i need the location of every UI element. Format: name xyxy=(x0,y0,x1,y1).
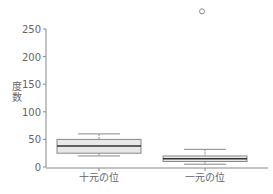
x-tick-label: 一元の位 xyxy=(185,171,225,183)
y-tick-label: 150 xyxy=(22,79,41,90)
y-tick-label: 200 xyxy=(22,52,41,63)
y-tick-label: 0 xyxy=(35,162,41,173)
y-tick-label: 100 xyxy=(22,107,41,118)
y-tick-label: 250 xyxy=(22,24,41,35)
plot-area xyxy=(57,9,247,164)
x-tick-label: 十元の位 xyxy=(79,171,119,183)
box-plot-chart: 050100150200250 十元の位一元の位 度数 xyxy=(0,0,273,194)
y-axis: 050100150200250 xyxy=(22,24,46,173)
x-axis: 十元の位一元の位 xyxy=(46,168,268,183)
box-ones xyxy=(163,9,247,164)
outlier-point xyxy=(200,9,205,14)
box-tens xyxy=(57,134,141,156)
y-axis-label: 度数 xyxy=(12,80,22,103)
y-tick-label: 50 xyxy=(28,134,41,145)
